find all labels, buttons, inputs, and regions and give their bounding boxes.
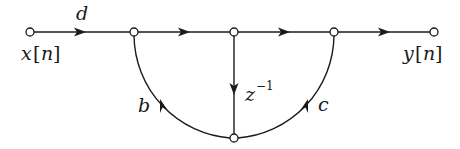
input-label-open: [ [33, 42, 40, 64]
delay-label: z −1 [244, 79, 274, 105]
edge-n3-to-output [338, 28, 430, 37]
node-n4 [230, 134, 238, 142]
input-label-index: n [41, 42, 53, 64]
node-input [26, 28, 34, 36]
input-label-var: x [21, 42, 32, 64]
gain-label-c: c [318, 93, 329, 115]
node-n3 [330, 28, 338, 36]
edge-n2-to-n3 [238, 28, 330, 37]
gain-label-b: b [138, 94, 150, 116]
output-label-close: ] [435, 42, 442, 64]
input-label-close: ] [53, 42, 60, 64]
signal-flow-graph: d x [ n ] y [ n ] z −1 b c [0, 0, 460, 149]
edge-input-to-n1 [34, 28, 130, 37]
output-label-index: n [423, 42, 435, 64]
output-label-var: y [402, 42, 414, 64]
arrow-curved-icon [160, 99, 168, 113]
edge-delay-n2-to-n4 [230, 36, 239, 134]
output-label: y [ n ] [402, 42, 442, 64]
arrow-curved-icon [301, 99, 309, 113]
node-n1 [130, 28, 138, 36]
node-output [430, 28, 438, 36]
input-label: x [ n ] [21, 42, 60, 64]
gain-label-d: d [76, 2, 88, 24]
output-label-open: [ [415, 42, 422, 64]
node-n2 [230, 28, 238, 36]
delay-label-base: z [244, 83, 256, 105]
edge-b-n4-to-n1 [134, 36, 230, 138]
delay-label-exponent: −1 [256, 79, 274, 93]
edge-n1-to-n2 [138, 28, 230, 37]
